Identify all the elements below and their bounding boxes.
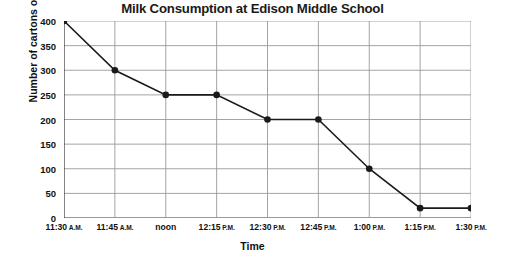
x-tick-label: 11:30 A.M.: [46, 222, 83, 232]
y-axis-tick-labels: 050100150200250300350400: [0, 21, 62, 218]
y-tick-label: 300: [16, 65, 56, 76]
x-tick-label: 12:15 P.M.: [199, 222, 235, 232]
data-point: [417, 205, 424, 212]
data-point: [315, 116, 322, 123]
y-tick-label: 100: [16, 163, 56, 174]
line-chart-svg: [64, 21, 471, 218]
x-tick-label: 1:00 P.M.: [354, 222, 385, 232]
data-point: [213, 92, 220, 99]
data-point: [366, 165, 373, 172]
x-tick-label: 1:30 P.M.: [455, 222, 486, 232]
x-tick-label: 12:30 P.M.: [249, 222, 285, 232]
chart-title: Milk Consumption at Edison Middle School: [0, 1, 505, 16]
chart-figure: Milk Consumption at Edison Middle School…: [0, 0, 505, 270]
data-point: [112, 67, 119, 74]
x-tick-label: 1:15 P.M.: [405, 222, 436, 232]
x-tick-label: 12:45 P.M.: [300, 222, 336, 232]
y-tick-label: 150: [16, 139, 56, 150]
y-tick-label: 250: [16, 89, 56, 100]
x-tick-label: noon: [155, 222, 176, 232]
x-tick-label: 11:45 A.M.: [96, 222, 133, 232]
data-point: [264, 116, 271, 123]
y-tick-label: 200: [16, 114, 56, 125]
x-axis-tick-labels: 11:30 A.M.11:45 A.M.noon12:15 P.M.12:30 …: [0, 222, 505, 238]
plot-area: [64, 21, 471, 218]
y-tick-label: 350: [16, 40, 56, 51]
y-tick-label: 400: [16, 16, 56, 27]
data-point: [162, 92, 169, 99]
x-axis-title: Time: [0, 240, 505, 252]
y-tick-label: 50: [16, 188, 56, 199]
data-point: [468, 205, 471, 212]
